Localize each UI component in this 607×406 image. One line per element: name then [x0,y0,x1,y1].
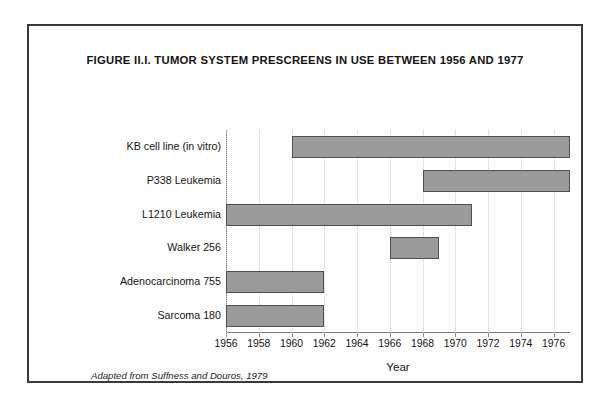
tick-1972 [488,333,489,337]
gridline-1956 [226,130,228,333]
bar [423,170,570,192]
gridline-1974 [521,130,523,333]
bar [226,305,324,327]
category-label: Adenocarcinoma 755 [69,275,221,287]
gridline-1966 [390,130,392,333]
bar [292,136,570,158]
gridline-1962 [324,130,326,333]
tick-1974 [521,333,522,337]
gridline-1960 [292,130,294,333]
tick-1962 [324,333,325,337]
x-axis-line [226,332,570,333]
bar [226,271,324,293]
category-label: Walker 256 [69,241,221,253]
category-label: Sarcoma 180 [69,309,221,321]
gridline-1976 [554,130,556,333]
tick-1970 [455,333,456,337]
x-tick-label: 1958 [247,338,270,349]
x-tick-label: 1968 [411,338,434,349]
tick-1958 [259,333,260,337]
x-tick-label: 1974 [509,338,532,349]
category-label: L1210 Leukemia [69,208,221,220]
tick-1960 [292,333,293,337]
figure-frame: FIGURE II.I. TUMOR SYSTEM PRESCREENS IN … [27,24,583,383]
bar [390,237,439,259]
tick-1968 [423,333,424,337]
bar [226,204,472,226]
plot-area [226,130,570,333]
x-axis-title: Year [226,360,570,373]
x-tick-label: 1962 [313,338,336,349]
x-tick-label: 1964 [345,338,368,349]
x-tick-label: 1960 [280,338,303,349]
category-label: KB cell line (in vitro) [69,140,221,152]
x-tick-label: 1966 [378,338,401,349]
gridline-1964 [357,130,359,333]
gridline-1970 [455,130,457,333]
tick-1956 [226,333,227,337]
category-label: P338 Leukemia [69,174,221,186]
figure-title: FIGURE II.I. TUMOR SYSTEM PRESCREENS IN … [29,54,581,66]
x-axis-tick-labels: 1956195819601962196419661968197019721974… [226,338,570,354]
gridline-1958 [259,130,261,333]
x-tick-label: 1970 [444,338,467,349]
x-tick-label: 1972 [477,338,500,349]
tick-1964 [357,333,358,337]
tick-1966 [390,333,391,337]
category-axis-labels: KB cell line (in vitro)P338 LeukemiaL121… [69,130,221,333]
tick-1976 [554,333,555,337]
gridline-1972 [488,130,490,333]
x-tick-label: 1976 [542,338,565,349]
x-tick-label: 1956 [214,338,237,349]
gridline-1968 [423,130,425,333]
